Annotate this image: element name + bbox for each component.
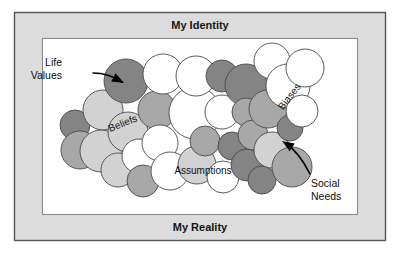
- band-label-top: My Identity: [171, 19, 229, 31]
- identity-reality-diagram: My Identity BeliefsAssumptionsBiases Lif…: [0, 0, 400, 253]
- diagram-page: My Identity BeliefsAssumptionsBiases Lif…: [0, 0, 400, 253]
- bubble: [104, 59, 148, 103]
- cluster-label-assumptions: Assumptions: [174, 165, 231, 176]
- band-label-bottom: My Reality: [173, 221, 228, 233]
- bubble: [248, 166, 276, 194]
- callout-social-needs-line1: Social: [311, 177, 340, 189]
- bubble: [286, 49, 324, 87]
- callout-life-values-line1: Life: [45, 56, 62, 68]
- callout-social-needs-line2: Needs: [311, 190, 341, 202]
- callout-life-values-line2: Values: [31, 69, 62, 81]
- bubble: [190, 126, 220, 156]
